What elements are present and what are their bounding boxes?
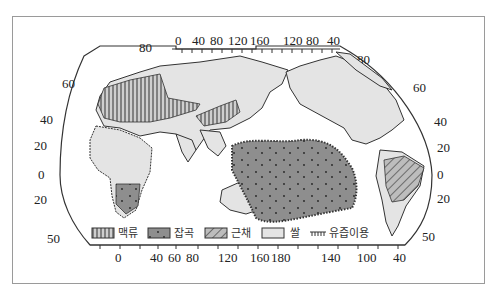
dairy-line-icon xyxy=(310,232,326,236)
bottom-tick-40: 40 xyxy=(150,250,163,265)
top-tick-0: 0 xyxy=(175,33,182,48)
bottom-tick-160: 160 xyxy=(250,250,270,265)
bottom-tick-40w: 40 xyxy=(393,250,406,265)
right-lat-50s: 50 xyxy=(422,229,435,244)
left-lat-0: 0 xyxy=(38,167,45,182)
right-lat-20: 20 xyxy=(437,140,450,155)
legend-label-rice: 쌀 xyxy=(290,227,300,240)
bottom-tick-80: 80 xyxy=(186,250,199,265)
north-america-landmass xyxy=(286,56,404,144)
top-tick-80w: 80 xyxy=(306,33,319,48)
left-lat-40: 40 xyxy=(40,112,53,127)
top-tick-40: 40 xyxy=(192,33,205,48)
bottom-tick-100: 100 xyxy=(357,250,377,265)
bottom-tick-0: 0 xyxy=(115,250,122,265)
legend-item-wheat: 맥류 xyxy=(92,227,138,240)
right-lat-60: 60 xyxy=(413,80,426,95)
left-lat-20: 20 xyxy=(34,138,47,153)
top-tick-160: 160 xyxy=(250,33,270,48)
right-lat-20s: 20 xyxy=(437,191,450,206)
bottom-tick-60: 60 xyxy=(168,250,181,265)
wheat-swatch-icon xyxy=(92,228,114,238)
legend-label-root: 근채 xyxy=(231,227,251,240)
bottom-tick-180: 180 xyxy=(271,250,291,265)
world-food-map: 0 40 80 120 160 120 80 40 0 40 60 80 120… xyxy=(0,0,496,299)
legend-label-wheat: 맥류 xyxy=(118,227,138,240)
legend-item-grain: 잡곡 xyxy=(148,227,194,240)
legend-label-dairy: 유즙이용 xyxy=(329,227,369,240)
right-lat-40: 40 xyxy=(434,114,447,129)
top-tick-80: 80 xyxy=(210,33,223,48)
bottom-tick-140: 140 xyxy=(321,250,341,265)
legend-item-root: 근채 xyxy=(205,227,251,240)
se-asia-landmass xyxy=(200,130,226,156)
left-lat-80: 80 xyxy=(139,40,152,55)
top-tick-40w: 40 xyxy=(327,33,340,48)
right-lat-0: 0 xyxy=(437,167,444,182)
legend-item-dairy: 유즙이용 xyxy=(310,227,369,240)
rice-swatch-icon xyxy=(262,228,284,238)
legend: 맥류 잡곡 근채 쌀 유즙이용 xyxy=(92,227,369,240)
root-swatch-icon xyxy=(205,228,227,238)
top-tick-120w: 120 xyxy=(283,33,303,48)
left-lat-60: 60 xyxy=(62,76,75,91)
left-lat-20s: 20 xyxy=(34,192,47,207)
top-tick-120: 120 xyxy=(228,33,248,48)
legend-label-grain: 잡곡 xyxy=(174,227,194,240)
left-lat-50s: 50 xyxy=(47,231,60,246)
legend-item-rice: 쌀 xyxy=(262,227,300,240)
bottom-tick-120: 120 xyxy=(218,250,238,265)
grain-swatch-icon xyxy=(148,228,170,238)
